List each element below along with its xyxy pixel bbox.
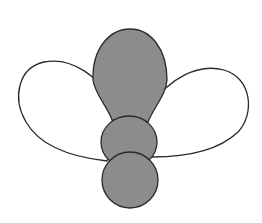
head [102,152,158,208]
insect-figure [0,0,262,223]
